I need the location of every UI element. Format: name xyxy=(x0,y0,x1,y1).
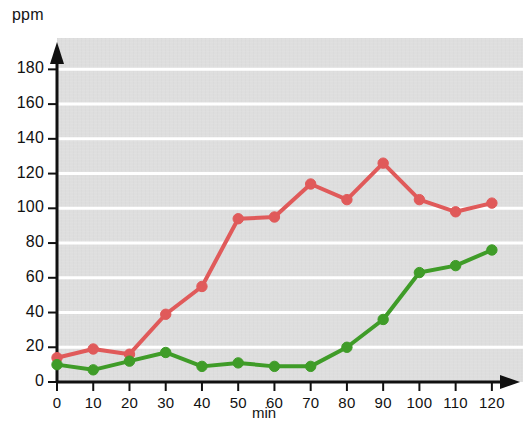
data-point-green xyxy=(269,361,279,371)
y-axis-tick-label: 120 xyxy=(0,164,44,182)
y-axis-tick-label: 0 xyxy=(0,372,44,390)
line-chart: ppm min 020406080100120140160180 0102030… xyxy=(0,0,523,423)
chart-canvas xyxy=(0,0,523,423)
y-axis-tick-label: 100 xyxy=(0,198,44,216)
data-point-red xyxy=(378,158,388,168)
data-point-green xyxy=(88,365,98,375)
data-point-green xyxy=(342,342,352,352)
data-point-red xyxy=(161,309,171,319)
data-point-green xyxy=(233,358,243,368)
y-axis-tick-label: 40 xyxy=(0,303,44,321)
data-point-red xyxy=(197,281,207,291)
data-point-red xyxy=(450,207,460,217)
data-point-green xyxy=(487,245,497,255)
data-point-red xyxy=(487,198,497,208)
data-series-layer xyxy=(52,158,497,375)
data-point-green xyxy=(305,361,315,371)
y-axis-tick-label: 60 xyxy=(0,268,44,286)
data-point-red xyxy=(269,212,279,222)
y-axis-tick-label: 140 xyxy=(0,129,44,147)
data-point-red xyxy=(342,194,352,204)
data-point-red xyxy=(233,214,243,224)
data-point-green xyxy=(52,359,62,369)
series-line-red xyxy=(57,163,492,358)
data-point-red xyxy=(88,344,98,354)
data-point-green xyxy=(197,361,207,371)
axes-group xyxy=(50,42,520,389)
data-point-green xyxy=(414,267,424,277)
data-point-red xyxy=(414,194,424,204)
y-axis-tick-label: 80 xyxy=(0,233,44,251)
y-axis-tick-label: 180 xyxy=(0,59,44,77)
data-point-green xyxy=(161,347,171,357)
data-point-green xyxy=(378,314,388,324)
data-point-green xyxy=(124,356,134,366)
data-point-green xyxy=(450,260,460,270)
data-point-red xyxy=(305,179,315,189)
y-axis-arrowhead xyxy=(50,42,64,64)
x-axis-arrowhead xyxy=(500,375,520,389)
y-axis-tick-label: 160 xyxy=(0,94,44,112)
x-axis-tick-label: 120 xyxy=(470,394,514,411)
y-axis-tick-label: 20 xyxy=(0,337,44,355)
